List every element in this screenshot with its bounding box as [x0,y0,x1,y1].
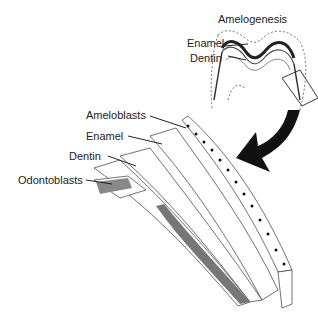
diagram-title: Amelogenesis [218,13,287,25]
tooth-label-dentin: Dentin [190,52,222,64]
tooth-crown [211,31,318,110]
label-dentin: Dentin [69,150,101,162]
tooth-label-enamel: Enamel [187,37,224,49]
amelogenesis-diagram: Amelogenesis Enamel Dentin Ameloblasts E… [0,0,318,319]
diagram-drawing [0,0,318,319]
label-enamel: Enamel [86,130,123,142]
label-odontoblasts: Odontoblasts [18,174,83,186]
label-ameloblasts: Ameloblasts [86,109,146,121]
magnify-arrow [236,110,300,172]
